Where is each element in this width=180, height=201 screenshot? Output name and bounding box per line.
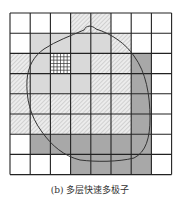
grid-cell-white	[151, 13, 171, 33]
grid-cell-white	[151, 94, 171, 114]
grid-cell-white	[151, 154, 171, 174]
grid-cell-white	[151, 114, 171, 134]
figure-caption: (b) 多层快速多极子	[0, 183, 180, 196]
grid-cell-white	[151, 134, 171, 154]
grid-cell-white	[10, 13, 30, 33]
grid-cell-dark	[111, 154, 131, 174]
grid-cell-white	[151, 33, 171, 53]
grid-cell-hatch	[91, 53, 111, 73]
grid-cell-dark	[30, 134, 50, 154]
fine-subgrid-cell	[50, 53, 70, 73]
grid-cell-hatch	[10, 53, 30, 73]
grid-cell-white	[30, 154, 50, 174]
grid-cell-light	[30, 74, 50, 94]
grid-cell-hatch	[30, 94, 50, 114]
grid-cell-hatch	[71, 13, 91, 33]
grid-cell-light	[71, 33, 91, 53]
grid-cell-hatch	[50, 114, 70, 134]
grid-cell-white	[111, 13, 131, 33]
grid-cell-white	[10, 134, 30, 154]
grid-cell-hatch	[111, 74, 131, 94]
grid-cell-dark	[71, 134, 91, 154]
grid-cell-light	[50, 74, 70, 94]
grid-cell-white	[10, 33, 30, 53]
grid-cell-dark	[91, 134, 111, 154]
grid-cell-white	[131, 33, 151, 53]
grid-cell-hatch	[111, 94, 131, 114]
grid-cell-light	[71, 74, 91, 94]
grid-cell-white	[50, 13, 70, 33]
grid-cell-white	[50, 154, 70, 174]
grid-cell-dark	[131, 74, 151, 94]
grid-cell-white	[10, 154, 30, 174]
grid-cell-hatch	[91, 94, 111, 114]
grid-cell-hatch	[111, 114, 131, 134]
grid-cell-white	[30, 13, 50, 33]
grid-cell-dark	[71, 154, 91, 174]
grid-cell-dark	[91, 154, 111, 174]
grid-cell-white	[151, 53, 171, 73]
grid-cell-dark	[111, 134, 131, 154]
grid-cell-white	[151, 74, 171, 94]
grid-cell-dark	[131, 114, 151, 134]
grid-cell-hatch	[91, 74, 111, 94]
grid-cell-hatch	[71, 114, 91, 134]
grid-cell-light	[71, 53, 91, 73]
grid-cell-hatch	[10, 114, 30, 134]
grid-cell-white	[131, 13, 151, 33]
grid-cell-hatch	[71, 94, 91, 114]
grid-cell-hatch	[111, 33, 131, 53]
grid-cell-hatch	[111, 53, 131, 73]
grid-cell-hatch	[91, 114, 111, 134]
grid-cell-light	[30, 33, 50, 53]
grid-cell-hatch	[50, 94, 70, 114]
grid-cell-light	[91, 33, 111, 53]
grid-cell-light	[30, 53, 50, 73]
fmm-grid-diagram	[0, 0, 180, 201]
